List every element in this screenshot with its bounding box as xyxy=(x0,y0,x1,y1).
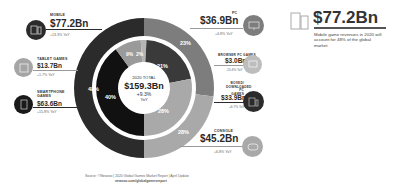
highlight-value: $77.2Bn xyxy=(313,8,378,28)
label-boxed-pct: 21% xyxy=(157,63,168,69)
smartphone-yoy: +15.8% YoY xyxy=(37,110,57,114)
label-console-inner-pct: 28% xyxy=(158,108,169,114)
tablet-value: $13.7Bn xyxy=(37,62,62,69)
source-url: newzoo.com/globalgamesreport xyxy=(115,179,167,183)
mobile-yoy: +13.3% YoY xyxy=(50,33,70,37)
tablet-yoy: +1.7% YoY xyxy=(37,73,55,77)
boxed-yoy: +6.7% YoY xyxy=(229,105,245,109)
source-text: Source: ©Newzoo | 2020 Global Games Mark… xyxy=(85,174,189,178)
label-mobile-pct: 48% xyxy=(88,86,99,92)
smartphone-value: $63.6Bn xyxy=(37,100,62,107)
tablet-category: TABLET GAMES xyxy=(37,57,67,61)
mobile-category: MOBILE xyxy=(50,13,65,17)
pc-yoy: +4.8% YoY xyxy=(215,32,233,36)
smartphone-category: SMARTPHONE GAMES xyxy=(37,91,67,99)
label-browser-pct: 2% xyxy=(136,51,144,57)
tablet-icon xyxy=(14,58,33,77)
center-value: $159.3Bn xyxy=(124,81,164,91)
label-pc-pct: 23% xyxy=(180,40,191,46)
mobile-icon xyxy=(26,20,46,40)
label-tablet-pct: 9% xyxy=(126,51,134,57)
label-smartphone-pct: 40% xyxy=(105,94,116,100)
browser-icon xyxy=(243,55,262,74)
device-icon xyxy=(290,11,310,35)
label-console-outer-pct: 28% xyxy=(178,129,189,135)
center-label: 2020 TOTAL xyxy=(132,75,156,80)
pc-value: $36.9Bn xyxy=(200,15,238,26)
boxed-icon xyxy=(243,91,264,112)
center-unit: YoY xyxy=(140,97,148,102)
smartphone-icon xyxy=(14,95,33,114)
browser-yoy: -13.4% YoY xyxy=(226,68,243,72)
pc-icon xyxy=(243,15,264,36)
console-value: $45.2Bn xyxy=(200,133,238,144)
mobile-value: $77.2Bn xyxy=(50,18,88,29)
console-gamepad-icon xyxy=(242,136,263,157)
highlight-text: Mobile game revenues in 2020 will accoun… xyxy=(314,32,384,48)
console-yoy: +6.8% YoY xyxy=(214,150,232,154)
